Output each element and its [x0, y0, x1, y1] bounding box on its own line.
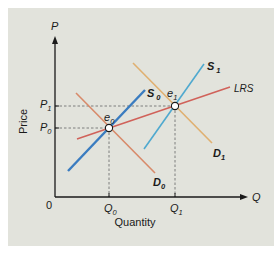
origin-label: 0 — [46, 199, 52, 211]
p0-label: P0 — [40, 121, 52, 136]
x-axis-symbol: Q — [252, 191, 261, 203]
y-axis-arrow-icon — [52, 36, 58, 44]
s1-label: S1 — [207, 60, 221, 75]
d0-label: D0 — [153, 176, 166, 191]
p1-label: P1 — [40, 98, 52, 113]
supply-demand-diagram: P Q Price Quantity 0 P1 P0 Q0 Q1 S1 S0 L… — [0, 0, 280, 254]
d1-label: D1 — [213, 147, 225, 162]
q0-label: Q0 — [104, 202, 118, 217]
y-axis-symbol: P — [51, 20, 59, 32]
d0-curve — [76, 93, 155, 173]
equilibrium-e1-marker — [171, 102, 178, 109]
y-axis-label: Price — [17, 109, 29, 134]
lrs-label: LRS — [234, 83, 254, 94]
x-axis-arrow-icon — [240, 194, 248, 200]
q1-label: Q1 — [170, 202, 183, 217]
x-axis-label: Quantity — [115, 216, 156, 228]
